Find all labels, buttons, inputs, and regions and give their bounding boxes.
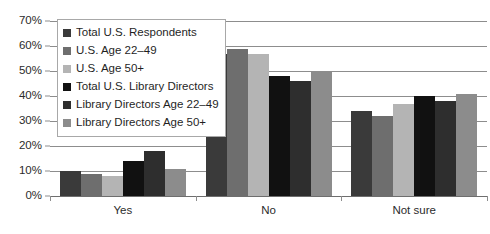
bar (414, 96, 435, 196)
x-axis-line (50, 196, 487, 197)
y-axis-tick-mark (45, 96, 50, 97)
legend-label: Library Directors Age 22–49 (76, 99, 219, 111)
legend-swatch-icon (63, 47, 71, 55)
y-axis-tick-label: 40% (0, 90, 42, 102)
y-axis-tick-label: 70% (0, 15, 42, 27)
bar (311, 71, 332, 196)
y-axis-tick-mark (45, 196, 50, 197)
y-axis-tick-label: 50% (0, 65, 42, 77)
bar (351, 111, 372, 196)
bar-chart: 70%60%50%40%30%20%10%0% YesNoNot sure To… (0, 0, 490, 234)
bar (81, 174, 102, 197)
legend-label: Total U.S. Library Directors (76, 81, 213, 93)
chart-legend: Total U.S. RespondentsU.S. Age 22–49U.S.… (57, 19, 226, 137)
legend-swatch-icon (63, 119, 71, 127)
x-axis-category-label: Yes (113, 204, 132, 216)
y-axis-tick-mark (45, 121, 50, 122)
legend-item: U.S. Age 50+ (63, 60, 219, 78)
bar (435, 101, 456, 196)
y-axis-tick-label: 0% (0, 190, 42, 202)
y-axis-tick-label: 20% (0, 140, 42, 152)
y-axis-tick-mark (45, 146, 50, 147)
bar (290, 81, 311, 196)
legend-item: Library Directors Age 22–49 (63, 96, 219, 114)
x-axis-category-label: No (261, 204, 276, 216)
legend-item: Library Directors Age 50+ (63, 114, 219, 132)
legend-label: Library Directors Age 50+ (76, 117, 206, 129)
bar-group-not-sure (351, 21, 477, 196)
legend-label: U.S. Age 22–49 (76, 45, 157, 57)
bar (269, 76, 290, 196)
legend-label: U.S. Age 50+ (76, 63, 144, 75)
y-axis-tick-label: 30% (0, 115, 42, 127)
y-axis: 70%60%50%40%30%20%10%0% (0, 0, 42, 234)
bar (144, 151, 165, 196)
x-axis-category-label: Not sure (392, 204, 435, 216)
legend-item: U.S. Age 22–49 (63, 42, 219, 60)
legend-swatch-icon (63, 65, 71, 73)
legend-label: Total U.S. Respondents (76, 27, 197, 39)
bar (372, 116, 393, 196)
bar (248, 54, 269, 197)
legend-item: Total U.S. Library Directors (63, 78, 219, 96)
legend-swatch-icon (63, 29, 71, 37)
y-axis-tick-mark (45, 171, 50, 172)
bar (102, 176, 123, 196)
bar (165, 169, 186, 197)
bar (123, 161, 144, 196)
legend-item: Total U.S. Respondents (63, 24, 219, 42)
x-axis-tick (487, 196, 488, 201)
bar (60, 171, 81, 196)
bar (456, 94, 477, 197)
x-axis-tick (196, 196, 197, 201)
y-axis-tick-mark (45, 21, 50, 22)
bar (393, 104, 414, 197)
legend-swatch-icon (63, 101, 71, 109)
legend-swatch-icon (63, 83, 71, 91)
bar (227, 49, 248, 197)
y-axis-tick-mark (45, 46, 50, 47)
x-axis-tick (341, 196, 342, 201)
x-axis-tick (50, 196, 51, 201)
y-axis-tick-mark (45, 71, 50, 72)
y-axis-tick-label: 10% (0, 165, 42, 177)
y-axis-tick-label: 60% (0, 40, 42, 52)
